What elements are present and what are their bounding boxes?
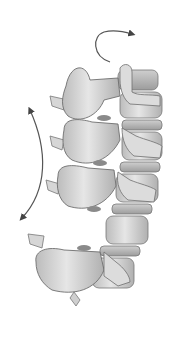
vertebra-4 [28, 234, 130, 306]
axial-rotation-arrow [96, 31, 132, 62]
spine-drawing [0, 0, 181, 345]
flexion-extension-arrow [22, 110, 43, 218]
spine-illustration [0, 0, 181, 345]
